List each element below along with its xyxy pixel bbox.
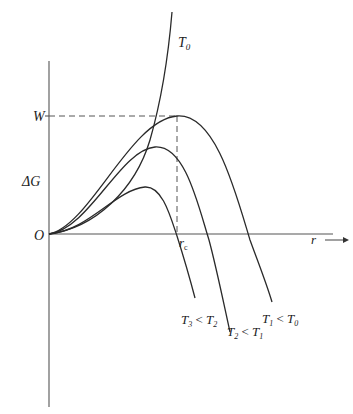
curve-t2	[49, 147, 230, 332]
label-t2: T2 < T1	[227, 324, 263, 341]
curve-t1	[49, 116, 272, 302]
label-t3: T3 < T2	[181, 312, 217, 329]
nucleation-diagram: T0 W ΔG O rc r T1 < T0 T2 < T1 T3 < T2	[0, 0, 353, 414]
label-delta-g: ΔG	[21, 174, 40, 189]
label-t0: T0	[178, 35, 191, 52]
curve-t0	[49, 12, 172, 234]
label-rc: rc	[179, 235, 188, 252]
label-origin: O	[34, 228, 44, 243]
label-w: W	[33, 109, 46, 124]
r-arrow-icon	[325, 237, 349, 243]
curve-t3	[49, 187, 195, 298]
label-t1: T1 < T0	[262, 311, 298, 328]
